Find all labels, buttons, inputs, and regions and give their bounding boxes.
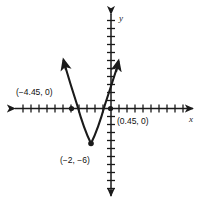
vertex-label: (−2, −6) [60, 155, 90, 165]
point-left-root [69, 106, 74, 111]
y-axis-label: y [118, 13, 123, 23]
parabola-graph-figure: x [0, 0, 208, 208]
x-axis-label: x [188, 114, 193, 124]
figure-background [0, 0, 208, 208]
left-root-label: (−4.45, 0) [16, 87, 53, 97]
coordinate-plane-svg: x [0, 0, 208, 208]
point-vertex [88, 141, 94, 147]
right-root-label: (0.45, 0) [117, 116, 149, 126]
point-right-root [108, 106, 113, 111]
